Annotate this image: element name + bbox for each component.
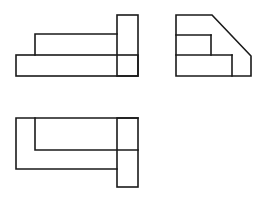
side-view <box>176 15 251 76</box>
top-right-tab <box>117 118 138 187</box>
front-raised-step <box>35 34 117 55</box>
top-view <box>16 118 138 187</box>
orthographic-drawing <box>0 0 265 210</box>
side-outer-profile <box>176 15 251 76</box>
front-tall-post <box>117 15 138 76</box>
front-base-slab <box>16 55 138 76</box>
top-inner-step <box>35 118 138 150</box>
front-view <box>16 15 138 76</box>
